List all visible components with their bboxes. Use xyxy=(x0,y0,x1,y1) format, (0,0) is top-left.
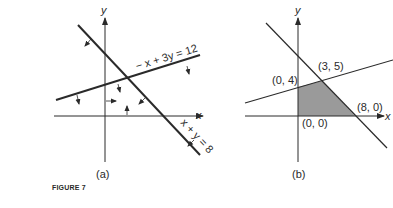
y-axis-label-a: y xyxy=(100,4,108,16)
panel-a-label: (a) xyxy=(96,168,109,180)
line2-label: − x + 3y = 12 xyxy=(134,42,199,72)
y-axis-label-b: y xyxy=(294,4,302,16)
panel-b-label: (b) xyxy=(292,168,305,180)
panel-a: y x − x + 3y = 12 x + y = 8 (a) xyxy=(54,4,216,180)
figure-canvas: y x − x + 3y = 12 x + y = 8 (a) y x (0, … xyxy=(0,0,393,208)
figure-caption: FIGURE 7 xyxy=(52,184,86,191)
line-neg-x-plus-3y-12 xyxy=(56,55,200,100)
vertex-label-0-0: (0, 0) xyxy=(302,117,328,129)
vertex-label-8-0: (8, 0) xyxy=(357,101,383,113)
vertex-label-3-5: (3, 5) xyxy=(318,60,344,72)
x-axis-label-b: x xyxy=(384,110,391,122)
line1-label: x + y = 8 xyxy=(179,116,217,155)
vertex-label-0-4: (0, 4) xyxy=(272,74,298,86)
line-x-plus-y-8 xyxy=(78,25,200,155)
panel-b: y x (0, 4) (3, 5) (8, 0) (0, 0) (b) xyxy=(245,4,393,180)
x-axis-label-a-visible: x xyxy=(196,109,202,121)
